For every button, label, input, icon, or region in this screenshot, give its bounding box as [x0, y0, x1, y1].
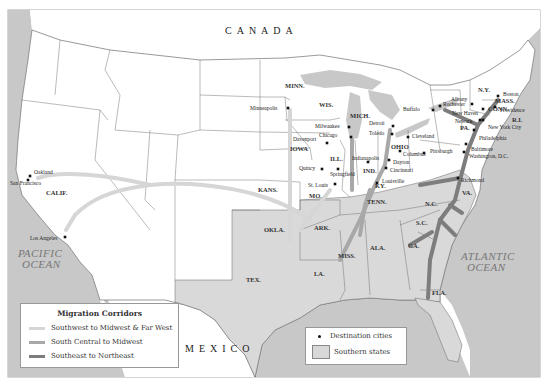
city-dot-icon — [497, 95, 500, 98]
state-label-kans: KANS. — [258, 186, 278, 193]
state-label-la: LA. — [314, 270, 325, 277]
legend-label: South Central to Midwest — [51, 338, 143, 346]
city-dot-icon — [471, 103, 474, 106]
state-label-tex: TEX. — [246, 276, 261, 283]
city-dot-icon — [64, 236, 67, 239]
city-label: Boston — [503, 91, 519, 97]
city-dot-icon — [407, 136, 410, 139]
legend-item-south-central: South Central to Midwest — [21, 335, 178, 349]
city-label: Springfield — [330, 171, 355, 177]
state-label-mass: MASS. — [495, 97, 515, 104]
city-label: Detroit — [369, 120, 385, 126]
city-label: Chicago — [319, 132, 338, 138]
city-label: Dayton — [393, 159, 409, 165]
city-dot-icon — [326, 142, 329, 145]
legend-label: Southern states — [334, 348, 390, 356]
city-dot-icon — [432, 109, 435, 112]
city-dot-icon — [439, 105, 442, 108]
state-label-pa: PA. — [460, 124, 470, 131]
state-label-mich: MICH. — [350, 112, 370, 119]
state-label-ga: GA. — [408, 242, 420, 249]
city-dot-icon — [392, 125, 395, 128]
swatch-southeast — [29, 355, 45, 358]
state-label-fla: FLA. — [432, 289, 447, 296]
city-dot-icon — [350, 136, 353, 139]
city-label: Baltimore — [471, 146, 494, 152]
city-dot-icon — [482, 119, 485, 122]
city-label: Cleveland — [412, 133, 435, 139]
state-label-sc: S.C. — [416, 219, 428, 226]
legend-label: Southwest to Midwest & Far West — [51, 324, 172, 332]
city-dot-icon — [473, 129, 476, 132]
city-dot-icon — [348, 126, 351, 129]
state-label-iowa: IOWA — [290, 145, 308, 152]
city-marker: San Francisco — [10, 179, 41, 186]
city-dot-icon — [385, 167, 388, 170]
country-label-canada: CANADA — [225, 25, 298, 36]
city-label: Buffalo — [403, 106, 420, 112]
city-dot-icon — [367, 161, 370, 164]
city-dot-icon — [287, 107, 290, 110]
state-label-miss: MISS. — [338, 252, 356, 259]
city-label: Providence — [500, 107, 525, 113]
state-label-ny: N.Y. — [478, 86, 490, 93]
legend-item-destination-cities: Destination cities — [306, 328, 406, 344]
city-label: Newark — [455, 118, 473, 124]
swatch-southwest — [29, 327, 45, 330]
state-label-ill: ILL. — [330, 155, 343, 162]
state-label-calif: CALIF. — [46, 189, 68, 196]
state-label-ala: ALA. — [370, 244, 386, 251]
city-dot-icon — [29, 175, 32, 178]
city-dot-icon — [465, 143, 468, 146]
state-label-wis: WIS. — [319, 101, 334, 108]
city-label: San Francisco — [10, 180, 41, 186]
legend-item-southern-states: Southern states — [306, 344, 406, 360]
symbols-legend: Destination cities Southern states — [305, 327, 407, 365]
state-label-ind: IND. — [363, 167, 377, 174]
city-label: New Haven — [452, 110, 478, 116]
city-label: Columbus — [403, 151, 426, 157]
city-label: Pittsburgh — [430, 148, 453, 154]
migration-corridors-legend: Migration Corridors Southwest to Midwest… — [20, 303, 179, 368]
city-label: Albany — [451, 96, 467, 102]
gray-box-icon — [312, 345, 330, 359]
city-dot-icon — [482, 108, 485, 111]
city-marker: Columbus — [399, 150, 426, 157]
city-label: Richmond — [461, 177, 484, 183]
legend-label: Southeast to Northeast — [51, 352, 134, 360]
city-dot-icon — [494, 106, 497, 109]
legend-item-southeast: Southeast to Northeast — [21, 349, 178, 363]
city-label: Davenport — [293, 136, 317, 142]
city-marker: Richmond — [457, 177, 484, 183]
city-label: Milwaukee — [315, 123, 340, 129]
city-label: Louisville — [382, 178, 405, 184]
state-label-tenn: TENN. — [367, 198, 387, 205]
city-label: Toledo — [369, 130, 384, 136]
city-dot-icon — [337, 168, 340, 171]
state-label-okla: OKLA. — [264, 226, 285, 233]
city-label: Washington, D.C. — [469, 153, 509, 159]
city-dot-icon — [399, 150, 402, 153]
city-label: Indianapolis — [352, 155, 379, 161]
state-label-mo: MO. — [309, 192, 322, 199]
city-dot-icon — [321, 168, 324, 171]
city-dot-icon — [463, 151, 466, 154]
city-dot-icon — [334, 183, 337, 186]
city-label: Philadelphia — [479, 135, 507, 141]
state-label-ri: R.I. — [512, 116, 523, 123]
swatch-south-central — [29, 341, 45, 344]
ocean-label-atlantic-2: OCEAN — [467, 261, 506, 273]
country-label-mexico: MEXICO — [185, 343, 254, 354]
legend-label: Destination cities — [330, 332, 392, 340]
city-dot-icon — [388, 159, 391, 162]
city-dot-icon — [376, 182, 379, 185]
state-label-va: VA. — [462, 189, 473, 196]
city-label: Los Angeles — [30, 235, 57, 241]
city-label: Quincy — [299, 165, 315, 171]
city-label: Minneapolis — [250, 105, 278, 111]
city-dot-icon — [318, 335, 321, 338]
legend-item-southwest: Southwest to Midwest & Far West — [21, 321, 178, 335]
city-label: New York City — [488, 124, 521, 130]
state-label-ohio: OHIO — [391, 143, 409, 150]
city-label: St. Louis — [308, 182, 328, 188]
